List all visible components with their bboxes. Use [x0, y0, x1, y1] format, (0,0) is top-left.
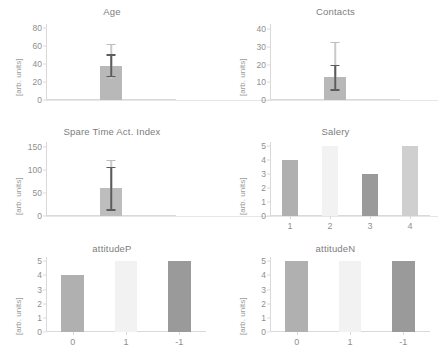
x-tick-label: 3	[367, 216, 372, 231]
x-tick-label: -1	[175, 332, 183, 347]
panel-title-salery: Salery	[224, 126, 447, 137]
y-axis-label-attituden: [arb. units]	[238, 298, 247, 335]
error-core	[110, 54, 112, 75]
panel-attitudep: attitudeP [arb. units] 01234501-1	[0, 237, 224, 357]
panel-age: Age [arb. units] 020406080	[0, 0, 224, 120]
y-axis-label-age: [arb. units]	[14, 59, 23, 96]
bar	[392, 261, 414, 332]
panel-title-age: Age	[0, 6, 224, 17]
y-tick-mark	[43, 192, 46, 193]
error-cap-upper	[107, 54, 116, 56]
y-axis-label-spare-time: [arb. units]	[14, 178, 23, 215]
error-bar	[105, 24, 117, 100]
error-bar	[329, 24, 341, 100]
x-tick-label: 1	[287, 216, 292, 231]
y-axis-label-attitudep: [arb. units]	[14, 298, 23, 335]
y-axis-line	[270, 257, 271, 332]
bar	[285, 261, 307, 332]
y-tick-mark	[267, 317, 270, 318]
y-tick-mark	[267, 332, 270, 333]
bar	[115, 261, 137, 332]
panel-title-contacts: Contacts	[224, 6, 447, 17]
panel-title-attituden: attitudeN	[224, 243, 447, 254]
bar	[402, 146, 419, 216]
error-core	[110, 167, 112, 210]
panel-salery: Salery [arb. units] 0123451234	[224, 120, 447, 237]
error-cap-upper	[331, 65, 340, 67]
y-tick-mark	[43, 303, 46, 304]
panel-title-spare-time: Spare Time Act. Index	[0, 126, 224, 137]
y-tick-mark	[267, 188, 270, 189]
y-tick-mark	[43, 289, 46, 290]
x-tick-label: 1	[123, 332, 128, 347]
y-axis-line	[270, 142, 271, 216]
x-tick-label: 1	[347, 332, 352, 347]
y-tick-mark	[43, 146, 46, 147]
panel-attituden: attitudeN [arb. units] 01234501-1	[224, 237, 447, 357]
x-tick-label: -1	[399, 332, 407, 347]
y-tick-mark	[267, 64, 270, 65]
y-axis-label-contacts: [arb. units]	[238, 59, 247, 96]
bar	[322, 146, 339, 216]
y-tick-mark	[43, 64, 46, 65]
y-tick-mark	[267, 29, 270, 30]
y-tick-mark	[267, 216, 270, 217]
y-tick-mark	[267, 46, 270, 47]
error-bar	[105, 142, 117, 216]
plot-area-contacts: 010203040	[270, 24, 400, 100]
y-axis-line	[270, 24, 271, 100]
y-tick-mark	[267, 261, 270, 262]
error-cap-top	[107, 44, 116, 46]
y-tick-mark	[43, 317, 46, 318]
panel-title-attitudep: attitudeP	[0, 243, 224, 254]
y-axis-line	[46, 142, 47, 216]
error-core	[334, 65, 336, 90]
x-tick-label: 0	[294, 332, 299, 347]
bar	[282, 160, 299, 216]
y-tick-mark	[43, 332, 46, 333]
y-tick-mark	[267, 289, 270, 290]
y-tick-mark	[43, 82, 46, 83]
bar	[339, 261, 361, 332]
y-tick-mark	[43, 28, 46, 29]
panel-contacts: Contacts [arb. units] 010203040	[224, 0, 447, 120]
y-tick-mark	[267, 100, 270, 101]
plot-area-age: 020406080	[46, 24, 176, 100]
error-cap-upper	[107, 167, 116, 169]
y-tick-mark	[43, 275, 46, 276]
x-tick-label: 0	[70, 332, 75, 347]
error-cap-top	[107, 160, 116, 162]
x-tick-label: 2	[327, 216, 332, 231]
y-tick-mark	[267, 146, 270, 147]
y-tick-mark	[267, 160, 270, 161]
bar	[362, 174, 379, 216]
y-tick-mark	[267, 275, 270, 276]
y-tick-mark	[267, 303, 270, 304]
y-tick-mark	[43, 169, 46, 170]
plot-area-salery: 0123451234	[270, 142, 430, 216]
plot-area-attitudep: 01234501-1	[46, 257, 206, 332]
bar	[168, 261, 190, 332]
y-tick-mark	[267, 174, 270, 175]
panel-spare-time: Spare Time Act. Index [arb. units] 05010…	[0, 120, 224, 237]
y-tick-mark	[267, 202, 270, 203]
y-axis-line	[46, 24, 47, 100]
x-tick-label: 4	[407, 216, 412, 231]
bar	[61, 275, 83, 332]
y-tick-mark	[43, 46, 46, 47]
error-cap-lower	[107, 209, 116, 211]
y-tick-mark	[43, 261, 46, 262]
plot-area-spare-time: 050100150	[46, 142, 176, 216]
error-cap-lower	[331, 89, 340, 91]
chart-figure: Age [arb. units] 020406080 Contacts [arb…	[0, 0, 447, 357]
plot-area-attituden: 01234501-1	[270, 257, 430, 332]
error-cap-lower	[107, 76, 116, 78]
y-axis-label-salery: [arb. units]	[238, 178, 247, 215]
y-tick-mark	[267, 82, 270, 83]
y-axis-line	[46, 257, 47, 332]
error-cap-top	[331, 42, 340, 44]
